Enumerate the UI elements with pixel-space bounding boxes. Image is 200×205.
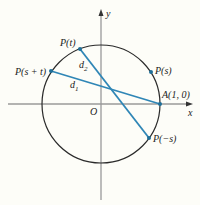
point-a <box>158 102 162 106</box>
label-a: A(1, 0) <box>161 89 190 101</box>
origin-label: O <box>90 106 97 117</box>
label-p-s: P(s) <box>154 65 172 77</box>
point-p-s <box>149 70 153 74</box>
label-d1: d1 <box>70 79 79 93</box>
label-p-minus-s: P(−s) <box>152 133 177 145</box>
x-axis-label: x <box>187 107 193 118</box>
y-axis-label: y <box>105 8 111 19</box>
unit-circle-diagram: y x O P(t) P(s + t) P(s) A(1, 0) P(−s) d… <box>0 0 200 205</box>
label-p-s-plus-t: P(s + t) <box>14 66 47 78</box>
label-d2: d2 <box>79 59 88 73</box>
point-p-minus-s <box>147 136 151 140</box>
segment-d1 <box>51 71 160 104</box>
y-axis-arrow-icon <box>99 9 104 16</box>
x-axis-arrow-icon <box>186 102 193 107</box>
segment-d2 <box>80 49 149 138</box>
point-p-s-plus-t <box>49 69 53 73</box>
label-p-t: P(t) <box>59 37 76 49</box>
point-p-t <box>78 47 82 51</box>
